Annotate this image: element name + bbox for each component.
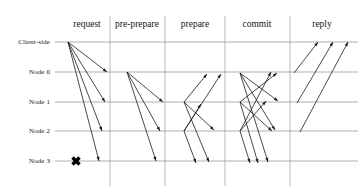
lane-label-node1: Node 1 <box>8 98 50 106</box>
message-arrow-commit-17 <box>240 102 272 131</box>
lane-label-node2: Node 2 <box>8 127 50 135</box>
message-arrow-prepare-7 <box>184 74 207 102</box>
message-arrow-request-3 <box>68 42 99 161</box>
message-arrow-commit-21 <box>240 131 250 163</box>
lane-label-node0: Node 0 <box>8 68 50 76</box>
lane-label-client: Client-side <box>8 38 50 46</box>
lane-lines-group <box>55 42 358 161</box>
phase-label-reply: reply <box>282 19 361 29</box>
pbft-sequence-diagram: Client-sideNode 0Node 1Node 2Node 3 requ… <box>0 0 361 193</box>
message-arrow-pre-prepare-4 <box>127 72 163 102</box>
message-arrow-prepare-12 <box>184 131 196 163</box>
message-arrow-reply-22 <box>294 42 318 73</box>
message-arrow-commit-18 <box>240 102 258 163</box>
message-arrow-reply-23 <box>297 42 333 103</box>
phase-divider-group <box>110 16 290 186</box>
lane-label-node3: Node 3 <box>8 157 50 165</box>
